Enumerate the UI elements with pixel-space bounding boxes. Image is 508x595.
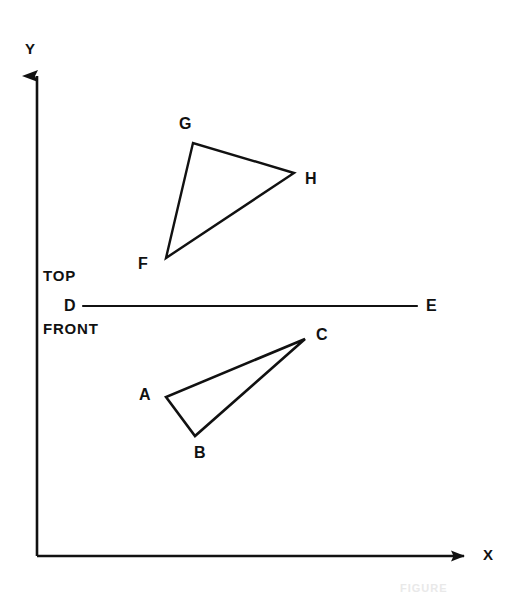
vertex-label-c: C — [316, 327, 328, 343]
x-axis-label: X — [483, 547, 493, 562]
vertex-label-f: F — [138, 256, 148, 272]
figure-caption: FIGURE — [400, 582, 448, 594]
folding-line-label-d: D — [64, 298, 76, 314]
front-view-triangle — [166, 339, 305, 436]
top-view-label: TOP — [43, 268, 76, 283]
top-view-triangle — [166, 143, 294, 258]
technical-drawing-figure: Y X TOP FRONT D E F G H A B C FIGURE — [0, 0, 508, 595]
vertex-label-b: B — [194, 445, 206, 461]
axis-lines — [37, 76, 464, 556]
vertex-label-a: A — [139, 387, 151, 403]
front-view-label: FRONT — [43, 321, 99, 336]
y-axis-label: Y — [25, 41, 35, 56]
vertex-label-h: H — [305, 171, 317, 187]
folding-line-label-e: E — [426, 298, 437, 314]
vertex-label-g: G — [179, 116, 192, 132]
